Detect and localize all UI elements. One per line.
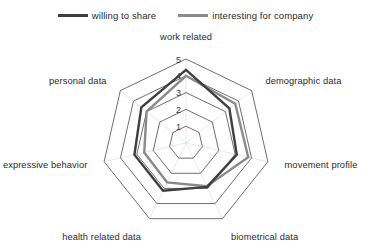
tick-label-5: 5 [176, 55, 181, 65]
axis-label-work-related: work related [159, 32, 212, 42]
axis-label-expressive-behavior: expressive behavior [3, 160, 88, 170]
axis-label-demographic-data: demographic data [265, 76, 342, 86]
tick-label-4: 4 [176, 71, 181, 81]
axis-label-health-related-data: health related data [62, 232, 142, 242]
axis-label-personal-data: personal data [49, 76, 107, 86]
tick-label-2: 2 [176, 105, 181, 115]
tick-label-1: 1 [176, 122, 181, 132]
axis-label-biometrical-data: biometrical data [231, 232, 299, 242]
radar-plot: 12345 work relateddemographic datamoveme… [0, 0, 371, 250]
radar-chart-figure: willing to share interesting for company… [0, 0, 371, 250]
axis-label-movement-profile: movement profile [285, 160, 358, 170]
tick-label-3: 3 [176, 88, 181, 98]
series-polygon-willing-to-share [134, 70, 236, 191]
radar-tick-labels: 12345 [176, 55, 181, 132]
spoke-3 [186, 143, 222, 219]
